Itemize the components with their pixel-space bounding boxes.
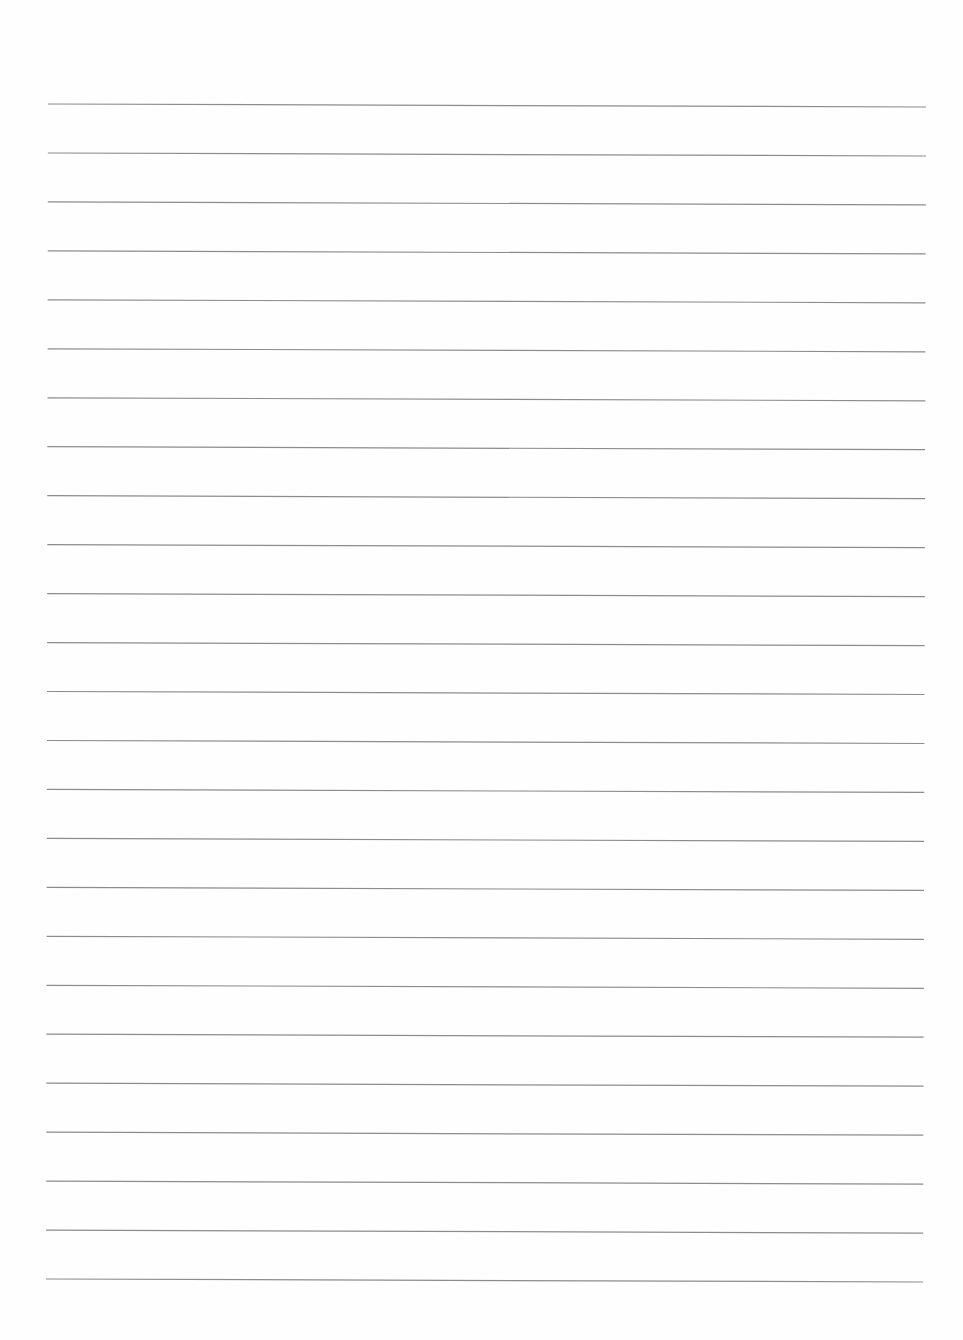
ruled-line xyxy=(47,594,925,597)
ruled-line xyxy=(47,545,925,548)
ruled-line xyxy=(48,398,926,401)
ruled-line xyxy=(46,1083,923,1086)
ruled-line xyxy=(47,692,925,695)
ruled-line xyxy=(48,202,926,205)
ruled-line xyxy=(47,643,925,646)
ruled-line xyxy=(47,447,925,450)
ruled-line xyxy=(46,1230,923,1233)
ruled-line xyxy=(46,1132,923,1135)
ruled-line xyxy=(47,985,924,988)
ruled-line xyxy=(48,349,926,352)
ruled-line xyxy=(48,300,926,303)
ruled-lines xyxy=(0,0,963,1340)
ruled-line xyxy=(46,1181,923,1184)
lined-paper-sheet xyxy=(0,0,963,1340)
ruled-line xyxy=(47,887,924,890)
ruled-line xyxy=(47,496,925,499)
ruled-line xyxy=(47,741,925,744)
ruled-line xyxy=(46,1279,923,1282)
ruled-line xyxy=(46,1034,923,1037)
ruled-line xyxy=(48,153,926,156)
ruled-line xyxy=(48,104,926,107)
ruled-line xyxy=(48,251,926,254)
ruled-line xyxy=(47,838,924,841)
ruled-line xyxy=(47,936,924,939)
ruled-line xyxy=(47,789,925,792)
